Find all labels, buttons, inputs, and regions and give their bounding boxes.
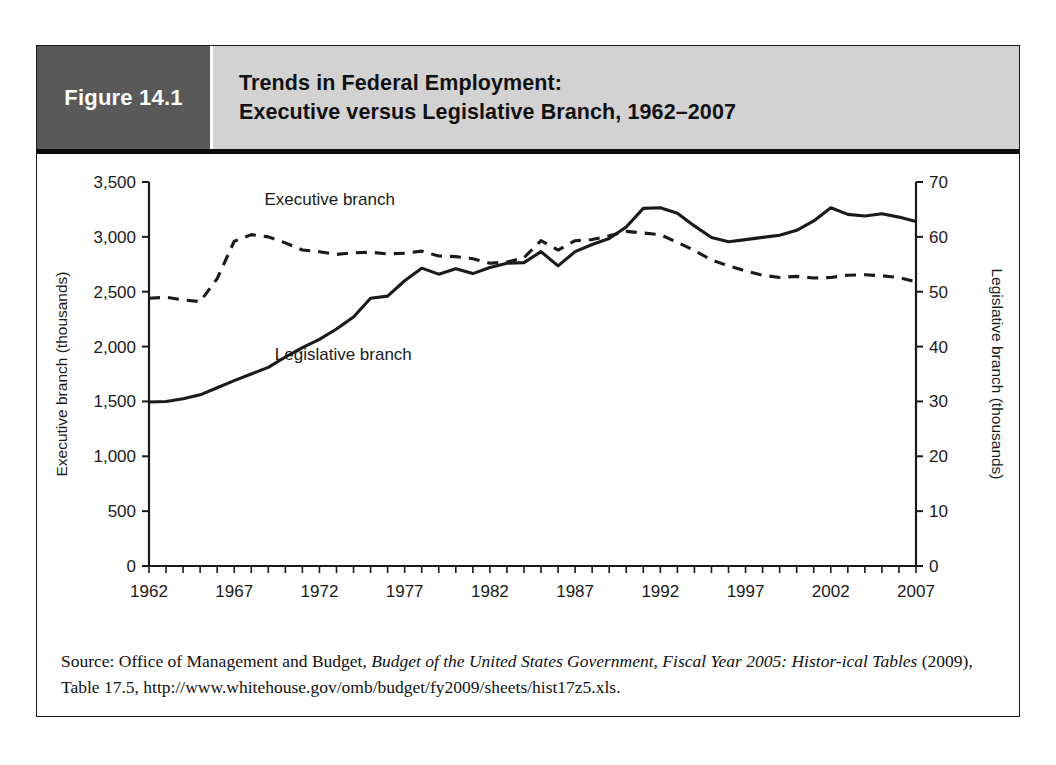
x-axis-tick-label: 1962: [130, 582, 168, 601]
annotation-legislative-branch: Legislative branch: [275, 345, 412, 364]
x-axis-tick-label: 1972: [301, 582, 339, 601]
y-axis-right-tick-label: 60: [929, 228, 948, 247]
x-axis-tick-label: 1987: [556, 582, 594, 601]
figure-number-badge: Figure 14.1: [37, 46, 210, 149]
y-axis-right-tick-label: 70: [929, 173, 948, 192]
figure-container: Figure 14.1 Trends in Federal Employment…: [36, 45, 1020, 717]
y-axis-left-title: Executive branch (thousands): [53, 271, 70, 476]
x-axis-tick-label: 1997: [727, 582, 765, 601]
y-axis-left-tick-label: 500: [108, 502, 136, 521]
x-axis-tick-label: 2007: [897, 582, 935, 601]
x-axis-tick-label: 1992: [641, 582, 679, 601]
x-axis-tick-label: 2002: [812, 582, 850, 601]
y-axis-right-tick-label: 0: [929, 557, 938, 576]
x-axis-tick-label: 1977: [386, 582, 424, 601]
y-axis-right-tick-label: 50: [929, 283, 948, 302]
employment-trends-line-chart: 05001,0001,5002,0002,5003,0003,500Execut…: [37, 154, 1019, 632]
y-axis-right-tick-label: 30: [929, 392, 948, 411]
series-annotations: Executive branchLegislative branch: [264, 190, 411, 364]
y-axis-left-tick-label: 1,500: [93, 392, 136, 411]
chart-area: 05001,0001,5002,0002,5003,0003,500Execut…: [37, 154, 1019, 632]
y-axis-right: 010203040506070Legislative branch (thous…: [916, 173, 1006, 576]
figure-title-block: Trends in Federal Employment: Executive …: [210, 46, 1019, 149]
figure-header: Figure 14.1 Trends in Federal Employment…: [37, 46, 1019, 154]
y-axis-right-tick-label: 20: [929, 447, 948, 466]
series-line-executive-branch: [149, 231, 916, 301]
y-axis-left-tick-label: 2,500: [93, 283, 136, 302]
source-note: Source: Office of Management and Budget,…: [61, 648, 995, 700]
annotation-executive-branch: Executive branch: [264, 190, 394, 209]
y-axis-left: 05001,0001,5002,0002,5003,0003,500Execut…: [53, 173, 149, 576]
y-axis-left-tick-label: 3,500: [93, 173, 136, 192]
y-axis-left-tick-label: 3,000: [93, 228, 136, 247]
figure-title-line-2: Executive versus Legislative Branch, 196…: [239, 98, 1019, 127]
y-axis-left-tick-label: 0: [127, 557, 136, 576]
figure-title-line-1: Trends in Federal Employment:: [239, 69, 1019, 98]
y-axis-right-tick-label: 10: [929, 502, 948, 521]
y-axis-left-tick-label: 2,000: [93, 338, 136, 357]
y-axis-right-tick-label: 40: [929, 338, 948, 357]
figure-number-label: Figure 14.1: [64, 85, 182, 111]
x-axis-tick-label: 1967: [215, 582, 253, 601]
source-italic-part-1: Budget of the United States Government, …: [371, 651, 841, 671]
source-italic-part-2: ical Tables: [842, 651, 918, 671]
data-series-group: [149, 208, 916, 402]
y-axis-right-title: Legislative branch (thousands): [989, 268, 1006, 479]
x-axis: 1962196719721977198219871992199720022007: [130, 566, 935, 601]
y-axis-left-tick-label: 1,000: [93, 447, 136, 466]
x-axis-tick-label: 1982: [471, 582, 509, 601]
source-prefix: Source: Office of Management and Budget,: [61, 651, 371, 671]
